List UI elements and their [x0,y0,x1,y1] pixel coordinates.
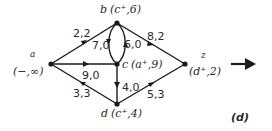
figure-label: (d) [231,111,249,124]
node-a-name: a [30,49,35,59]
edge-label-a-d: 3,3 [73,87,91,100]
edge-label-b-z: 8,2 [147,30,165,43]
node-d-name: d [101,107,108,120]
edge-label-d-z: 5,3 [147,88,165,101]
node-a [48,61,53,66]
node-z-label: (d⁺,2) [189,65,221,78]
node-b-label: (c⁺,6) [110,3,141,16]
arrowhead-d-z [148,82,155,87]
edge-label-c-d: 4,0 [122,81,140,94]
edge-label-c-b: 6,0 [124,38,142,51]
edge-label-a-c: 9,0 [82,69,100,82]
flow-network-diagram: a (−,∞) b (c⁺,6) c (a⁺,9) d (c⁺,4) z (d⁺… [0,0,272,131]
node-c [114,61,119,66]
edge-label-b-c: 7,0 [92,39,110,52]
node-c-label: (a⁺,9) [131,58,162,71]
right-arrow-icon [231,58,256,70]
node-z [182,61,187,66]
node-a-label: (−,∞) [13,65,43,78]
node-b-name: b [100,3,107,16]
edge-b-c [109,23,117,64]
edge-label-a-b: 2,2 [73,27,91,40]
arrowhead-a-c [83,61,89,67]
arrowhead-c-d [114,82,120,88]
node-d-label: (c⁺,4) [111,107,142,120]
node-c-name: c [122,58,128,71]
node-d [114,101,119,106]
node-b [114,20,119,25]
node-z-name: z [200,50,206,60]
